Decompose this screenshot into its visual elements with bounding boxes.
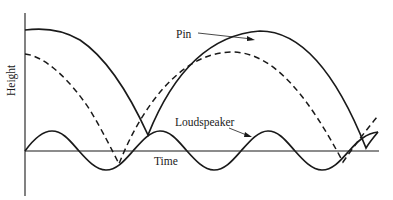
x-axis-label: Time	[154, 156, 178, 168]
y-axis-label: Height	[6, 65, 18, 96]
loudspeaker-arrow	[229, 128, 252, 137]
bouncing-pin-diagram	[0, 0, 393, 200]
pin-label: Pin	[176, 29, 191, 41]
loudspeaker-label: Loudspeaker	[175, 117, 234, 129]
pin-trajectory-dashed	[25, 52, 378, 164]
